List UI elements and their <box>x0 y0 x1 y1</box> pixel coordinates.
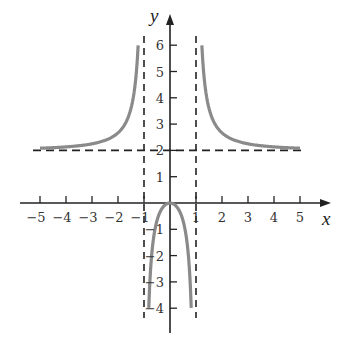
y-tick-label: −3 <box>145 275 164 290</box>
y-tick-label: 3 <box>156 117 164 132</box>
asymptote-lines <box>33 36 303 318</box>
x-axis-arrow-icon <box>320 199 331 207</box>
x-tick-label: 1 <box>192 210 200 225</box>
y-tick-label: 6 <box>156 38 164 53</box>
x-tick-label: −4 <box>52 210 71 225</box>
x-axis-label: x <box>321 208 331 229</box>
x-tick-label: 5 <box>296 210 304 225</box>
y-tick-label: −4 <box>145 301 164 316</box>
y-tick-label: 5 <box>156 65 164 80</box>
tick-labels: −5−4−3−2−112345−4−3−2−1123456 <box>26 38 304 316</box>
axes <box>20 14 331 333</box>
x-tick-label: −2 <box>104 210 123 225</box>
x-tick-label: −3 <box>78 210 97 225</box>
y-tick-label: 1 <box>156 170 164 185</box>
curve-right-branch <box>202 45 300 148</box>
x-tick-label: −5 <box>26 210 45 225</box>
plot-area: −5−4−3−2−112345−4−3−2−1123456 x y <box>0 0 351 356</box>
x-tick-label: 2 <box>218 210 226 225</box>
function-graph: −5−4−3−2−112345−4−3−2−1123456 x y <box>0 0 351 356</box>
x-tick-label: 4 <box>270 210 278 225</box>
y-tick-label: 4 <box>156 91 164 106</box>
y-axis-arrow-icon <box>166 14 174 25</box>
x-tick-label: 3 <box>244 210 252 225</box>
y-tick-label: −2 <box>145 249 164 264</box>
y-tick-label: −1 <box>145 222 164 237</box>
curve-left-branch <box>40 45 138 148</box>
y-tick-label: 2 <box>156 143 164 158</box>
y-axis-label: y <box>148 5 159 26</box>
